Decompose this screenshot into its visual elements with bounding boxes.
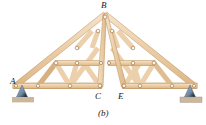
truss-members — [13, 12, 197, 88]
pin-joint — [152, 61, 156, 65]
pin-joint — [98, 84, 102, 88]
pin-joint — [68, 84, 72, 88]
pin-joint — [131, 46, 135, 50]
pin-joint — [75, 61, 79, 65]
truss-diagram-svg — [0, 0, 206, 125]
figure-caption: (b) — [98, 109, 109, 118]
member-bottom-chord-left-overlay — [13, 83, 101, 88]
pin-joint — [103, 15, 107, 19]
joint-label-C: C — [95, 92, 101, 101]
joint-label-E: E — [118, 92, 124, 101]
pin-joint — [54, 61, 58, 65]
pin-joint — [131, 61, 135, 65]
pin-joint — [36, 84, 39, 87]
pin-joint — [110, 29, 114, 33]
pin-joint — [99, 61, 102, 64]
truss-figure: A B C E (b) — [0, 0, 206, 125]
pin-joint — [75, 46, 79, 50]
pin-joint — [122, 84, 126, 88]
pin-joint — [96, 29, 100, 33]
member-bottom-chord-right-overlay — [123, 83, 197, 88]
support-base-left — [12, 97, 34, 102]
support-base-right — [180, 97, 202, 102]
pin-joint — [138, 84, 142, 88]
pin-joint — [170, 84, 173, 87]
pin-joint — [107, 61, 110, 64]
pin-joint — [192, 84, 195, 87]
joint-label-A: A — [10, 77, 16, 86]
joint-label-B: B — [101, 1, 107, 10]
